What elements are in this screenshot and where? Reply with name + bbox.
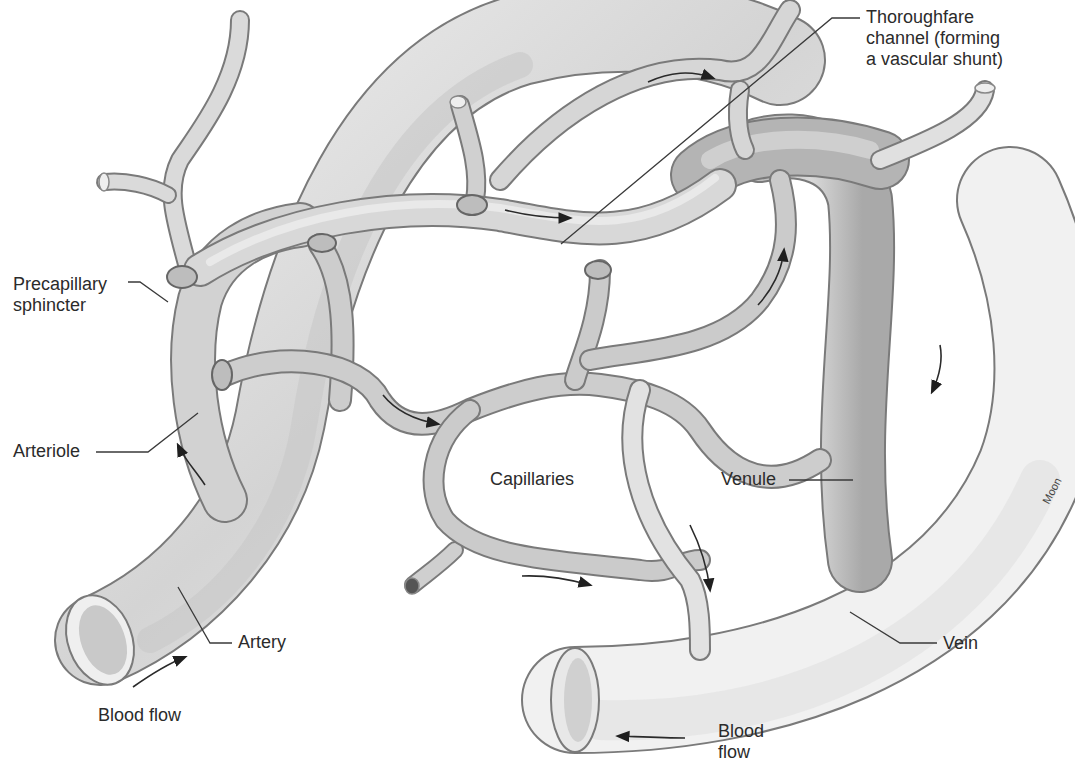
label-arteriole: Arteriole [13, 441, 80, 462]
label-line: Blood [718, 721, 764, 742]
label-venule: Venule [721, 469, 776, 490]
sphincter-5 [212, 360, 232, 390]
label-artery: Artery [238, 632, 286, 653]
label-line: flow [718, 742, 764, 763]
sphincter-4 [585, 261, 611, 279]
artery-vessel [54, 27, 780, 694]
sphincter-1 [167, 266, 197, 288]
sphincter-2 [308, 234, 336, 252]
label-line: Thoroughfare [866, 7, 1003, 28]
label-precapillary-sphincter: Precapillary sphincter [13, 274, 107, 316]
sphincter-3 [457, 195, 487, 215]
label-vein: Vein [943, 633, 978, 654]
label-line: sphincter [13, 295, 107, 316]
label-line: Precapillary [13, 274, 107, 295]
label-blood-flow-left: Blood flow [98, 705, 181, 726]
label-line: channel (forming [866, 28, 1003, 49]
label-line: a vascular shunt) [866, 49, 1003, 70]
flow-arrow-icon [932, 345, 941, 392]
capillary-bed-illustration [0, 0, 1075, 777]
flow-arrow-icon [522, 576, 590, 585]
label-blood-flow-right: Blood flow [718, 721, 764, 763]
label-capillaries: Capillaries [490, 469, 574, 490]
label-thoroughfare-channel: Thoroughfare channel (forming a vascular… [866, 7, 1003, 70]
